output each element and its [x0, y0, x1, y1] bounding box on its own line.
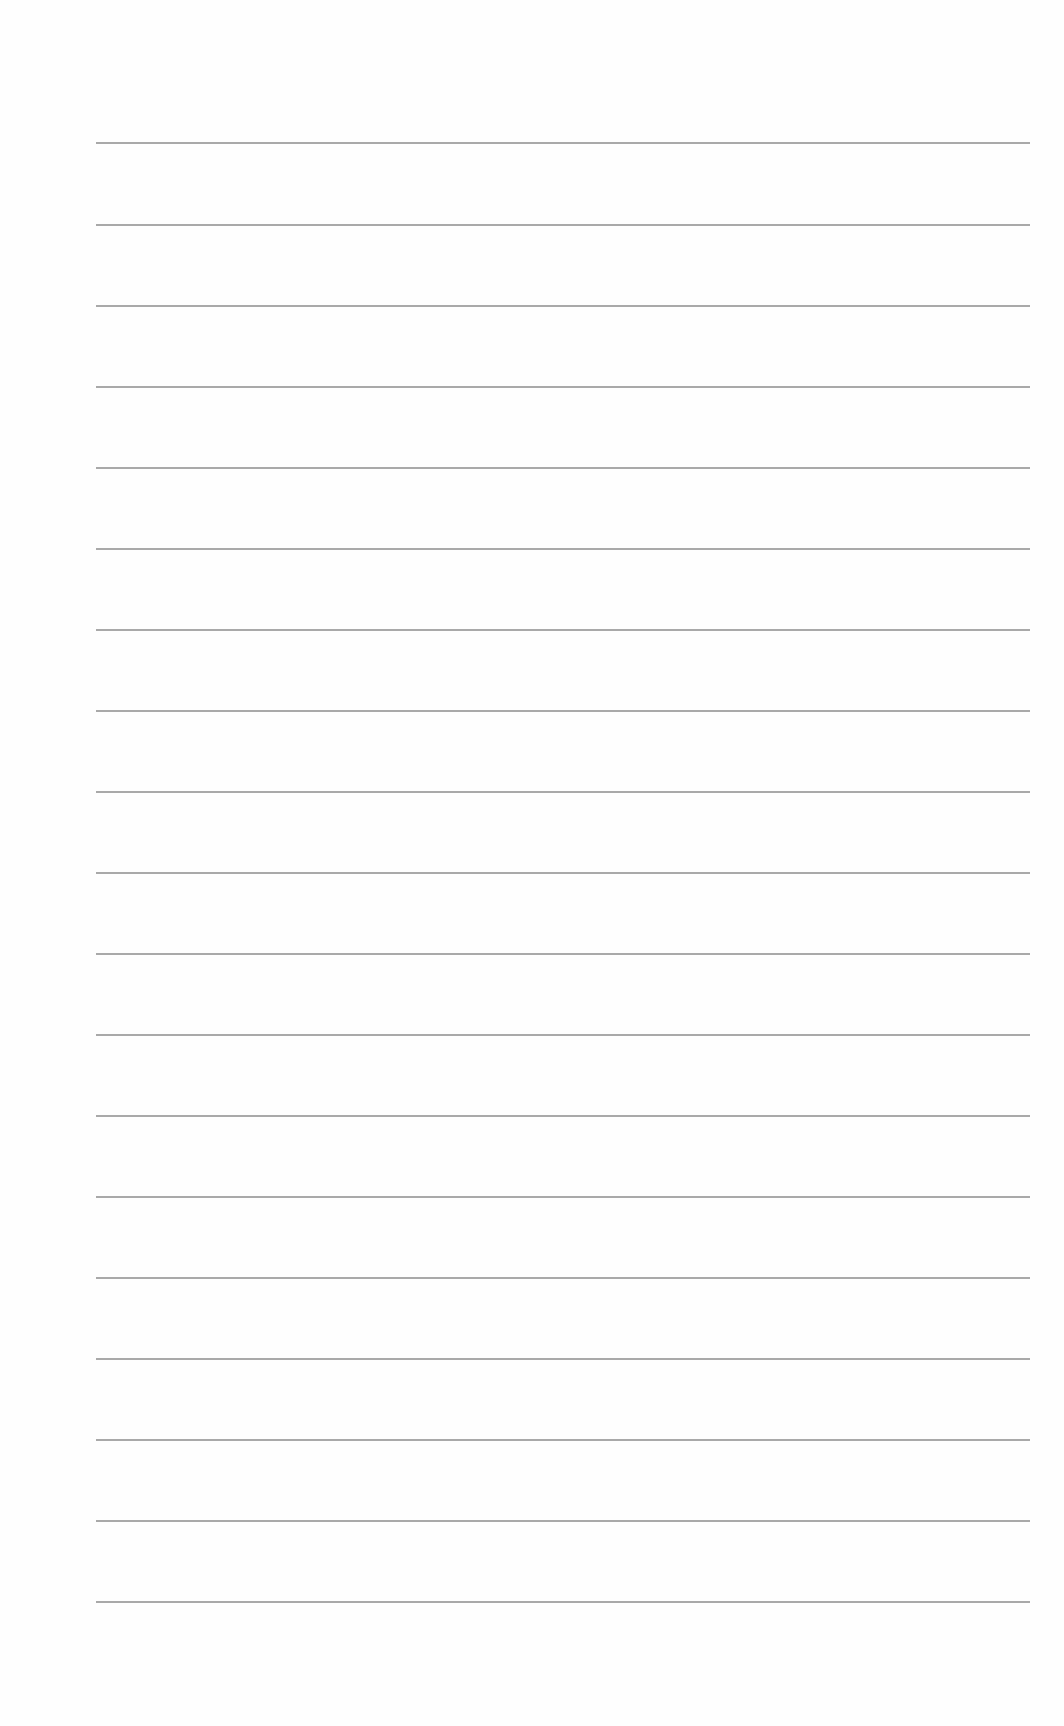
ruled-line — [96, 142, 1030, 144]
ruled-line — [96, 791, 1030, 793]
ruled-line — [96, 872, 1030, 874]
ruled-line — [96, 953, 1030, 955]
ruled-line — [96, 1277, 1030, 1279]
ruled-line — [96, 1439, 1030, 1441]
ruled-line — [96, 710, 1030, 712]
ruled-line — [96, 1520, 1030, 1522]
lined-page — [0, 0, 1064, 1726]
ruled-line — [96, 1115, 1030, 1117]
ruled-line — [96, 305, 1030, 307]
ruled-line — [96, 1601, 1030, 1603]
ruled-line — [96, 386, 1030, 388]
ruled-line — [96, 548, 1030, 550]
ruled-line — [96, 1034, 1030, 1036]
ruled-line — [96, 1358, 1030, 1360]
ruled-line — [96, 467, 1030, 469]
ruled-line — [96, 224, 1030, 226]
ruled-line — [96, 1196, 1030, 1198]
ruled-line — [96, 629, 1030, 631]
